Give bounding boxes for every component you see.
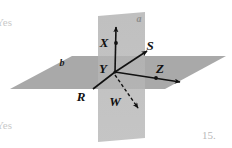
plane-a-shape: [98, 12, 145, 142]
label-R: R: [76, 89, 86, 104]
label-W: W: [109, 94, 122, 109]
figure-page: Yes Yes 15. XSZWRYab: [0, 0, 232, 148]
label-S: S: [146, 38, 153, 53]
ray-Z-point-dot: [154, 76, 158, 80]
label-X: X: [99, 35, 109, 50]
label-Y: Y: [99, 61, 108, 76]
ray-X: [115, 27, 116, 72]
ray-X-point-dot: [114, 41, 118, 45]
label-Z: Z: [155, 61, 164, 76]
geometry-figure: XSZWRYab: [0, 0, 232, 148]
label-plane-a: a: [137, 13, 142, 24]
label-plane-b: b: [60, 57, 65, 68]
origin-point-dot: [113, 70, 116, 73]
